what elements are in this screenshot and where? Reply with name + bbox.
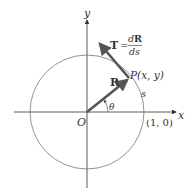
arc-length-s-label: s xyxy=(141,88,146,99)
origin-label: O xyxy=(77,116,86,129)
derivative-denominator: ds xyxy=(129,46,140,57)
unit-circle-diagram: y x O (1, 0) P(x, y) s θ R T = dR ds xyxy=(0,0,193,195)
y-axis-label: y xyxy=(83,7,91,20)
angle-theta-arc xyxy=(104,100,108,112)
numerator-r: R xyxy=(134,33,142,44)
point-p-label: P(x, y) xyxy=(129,69,164,81)
point-1-0-label: (1, 0) xyxy=(146,117,173,128)
vector-t-label: T xyxy=(110,39,119,52)
x-axis-label: x xyxy=(178,109,185,122)
vector-r-arrow xyxy=(87,80,127,112)
angle-theta-label: θ xyxy=(109,102,115,112)
vector-r-label: R xyxy=(110,76,120,89)
derivative-numerator: dR xyxy=(128,33,142,44)
